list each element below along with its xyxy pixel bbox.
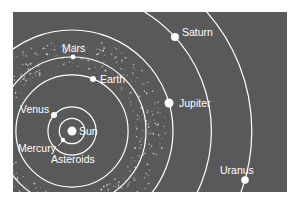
asteroid-dot — [135, 161, 136, 162]
asteroid-dot — [14, 57, 15, 58]
asteroid-dot — [54, 55, 55, 56]
asteroid-dot — [133, 180, 134, 181]
asteroid-dot — [89, 65, 90, 66]
asteroid-dot — [63, 63, 65, 65]
planet-uranus-icon — [241, 176, 249, 184]
planet-venus-icon — [51, 112, 57, 118]
label-earth: Earth — [100, 73, 125, 85]
asteroid-dot — [41, 62, 42, 63]
asteroid-dot — [5, 139, 7, 141]
asteroid-dot — [54, 46, 55, 47]
asteroid-dot — [14, 58, 15, 59]
asteroid-dot — [0, 125, 1, 127]
asteroid-dot — [46, 45, 48, 47]
asteroid-dot — [127, 183, 129, 185]
asteroid-dot — [154, 119, 155, 120]
asteroid-dot — [24, 189, 25, 190]
asteroid-dot — [141, 138, 142, 139]
asteroid-dot — [152, 173, 153, 174]
asteroid-dot — [1, 82, 2, 83]
asteroid-dot — [6, 176, 7, 177]
asteroid-dot — [25, 80, 27, 82]
asteroid-dot — [112, 59, 113, 60]
asteroid-dot — [144, 153, 146, 155]
diagram-canvas: SunMercuryVenusEarthMarsJupiterSaturnUra… — [0, 0, 294, 203]
asteroid-dot — [157, 111, 159, 113]
asteroid-dot — [154, 123, 155, 124]
solar-system-diagram: SunMercuryVenusEarthMarsJupiterSaturnUra… — [0, 0, 294, 203]
asteroid-dot — [96, 58, 97, 59]
asteroid-dot — [1, 117, 2, 118]
asteroid-dot — [106, 184, 108, 186]
asteroid-dot — [1, 126, 2, 127]
asteroid-dot — [139, 95, 141, 97]
asteroid-dot — [54, 49, 55, 50]
asteroid-dot — [8, 102, 10, 104]
asteroid-dot — [132, 111, 133, 112]
asteroid-dot — [31, 47, 32, 48]
asteroid-dot — [110, 197, 111, 198]
asteroid-dot — [152, 161, 153, 162]
asteroid-dot — [12, 159, 13, 160]
asteroid-dot — [14, 186, 15, 187]
asteroid-dot — [131, 162, 132, 163]
asteroid-dot — [16, 56, 17, 57]
asteroid-dot — [127, 75, 128, 76]
asteroid-dot — [111, 52, 112, 53]
asteroid-dot — [20, 81, 21, 82]
asteroid-dot — [14, 177, 15, 178]
asteroid-dot — [135, 69, 136, 70]
asteroid-dot — [150, 121, 151, 122]
asteroid-dot — [29, 198, 31, 200]
asteroid-dot — [64, 202, 66, 203]
asteroid-dot — [12, 97, 13, 98]
asteroid-dot — [16, 173, 17, 174]
asteroid-dot — [118, 181, 120, 183]
asteroid-dot — [4, 168, 5, 169]
asteroid-dot — [159, 137, 160, 138]
asteroid-dot — [37, 191, 38, 192]
asteroid-dot — [105, 70, 107, 72]
asteroid-dot — [2, 171, 3, 172]
asteroid-dot — [27, 190, 28, 191]
asteroid-dot — [38, 64, 39, 65]
asteroid-dot — [35, 78, 36, 79]
asteroid-dot — [9, 165, 10, 166]
asteroid-dot — [134, 179, 136, 181]
asteroid-dot — [24, 84, 25, 85]
asteroid-dot — [23, 176, 24, 177]
asteroid-dot — [130, 92, 132, 94]
asteroid-dot — [145, 131, 147, 133]
asteroid-dot — [20, 93, 21, 94]
asteroid-dot — [136, 128, 138, 130]
asteroid-dot — [160, 114, 161, 115]
asteroid-dot — [25, 63, 27, 65]
asteroid-dot — [34, 201, 35, 202]
asteroid-dot — [2, 104, 4, 106]
asteroid-dot — [132, 157, 133, 158]
asteroid-dot — [144, 177, 146, 179]
asteroid-dot — [35, 75, 36, 76]
asteroid-dot — [139, 147, 141, 149]
asteroid-dot — [51, 43, 52, 44]
asteroid-dot — [22, 193, 23, 194]
asteroid-dot — [144, 188, 146, 190]
asteroid-dot — [36, 195, 38, 197]
asteroid-dot — [6, 113, 8, 115]
asteroid-dot — [17, 178, 19, 180]
asteroid-dot — [102, 50, 104, 52]
asteroid-dot — [145, 173, 147, 175]
asteroid-dot — [15, 93, 16, 94]
asteroid-dot — [154, 102, 155, 103]
asteroid-dot — [43, 47, 44, 48]
asteroid-dot — [97, 53, 99, 55]
asteroid-dot — [97, 198, 99, 200]
asteroid-dot — [45, 191, 47, 193]
asteroid-dot — [8, 138, 9, 139]
asteroid-dot — [108, 188, 109, 189]
asteroid-dot — [139, 100, 140, 101]
asteroid-dot — [95, 67, 96, 68]
asteroid-dot — [4, 103, 6, 105]
asteroid-dot — [134, 160, 135, 161]
asteroid-dot — [121, 62, 122, 63]
